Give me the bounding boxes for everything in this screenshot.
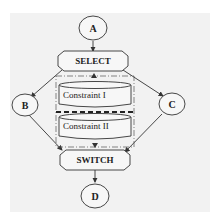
switch-label: SWITCH xyxy=(76,155,113,165)
node-a-label: A xyxy=(89,23,97,34)
flow-diagram: Constraint I Constraint II A SELECT B C … xyxy=(0,0,220,222)
node-c-label: C xyxy=(168,99,175,110)
select-label: SELECT xyxy=(75,56,111,66)
constraint-2-node[interactable]: Constraint II xyxy=(59,114,131,140)
constraint-2-label: Constraint II xyxy=(63,121,109,131)
select-node[interactable]: SELECT xyxy=(58,51,128,71)
node-d[interactable]: D xyxy=(81,184,109,208)
edge-select-b xyxy=(31,70,62,97)
node-b-label: B xyxy=(22,100,29,111)
constraint-1-node[interactable]: Constraint I xyxy=(59,82,131,108)
node-b[interactable]: B xyxy=(12,94,38,116)
arrow-up-icon xyxy=(91,73,97,78)
constraint-1-label: Constraint I xyxy=(63,90,106,100)
node-c[interactable]: C xyxy=(159,93,185,115)
switch-node[interactable]: SWITCH xyxy=(60,150,130,170)
edge-b-switch xyxy=(28,114,62,150)
node-d-label: D xyxy=(91,191,98,202)
node-a[interactable]: A xyxy=(79,16,107,40)
